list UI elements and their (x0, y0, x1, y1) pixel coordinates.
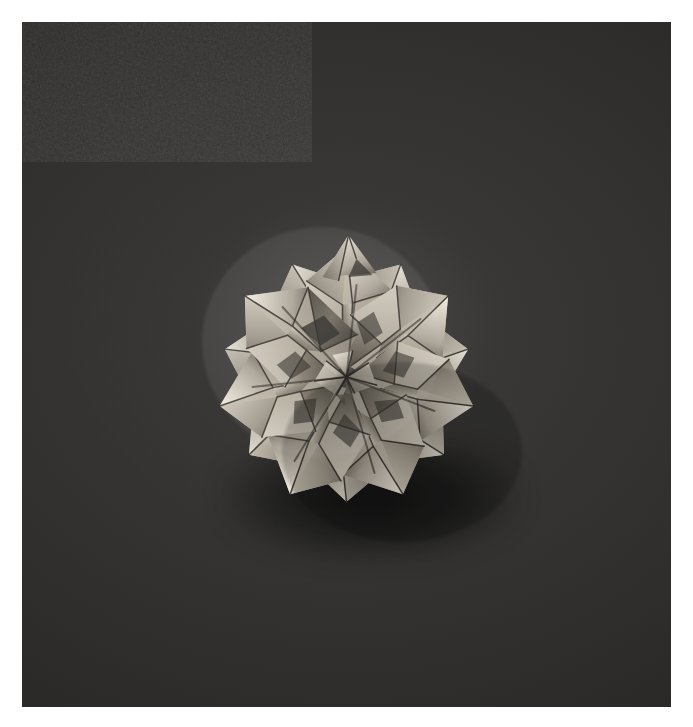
origami-model (22, 22, 671, 707)
photograph-page: modular origami star rosette (kusudama) (0, 0, 693, 727)
photo-plate (22, 22, 671, 707)
